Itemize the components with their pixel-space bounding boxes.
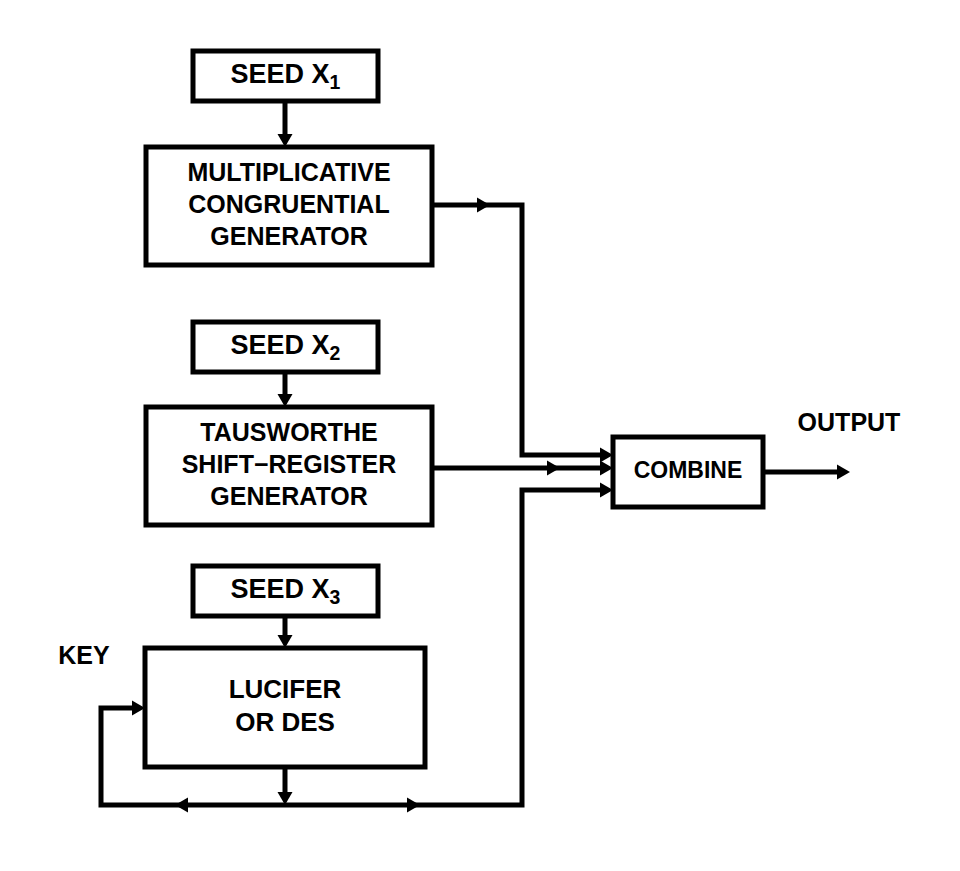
lucifer-or-des-box-label-line-2: OR DES xyxy=(235,707,335,737)
seed-x1-box-subscript: 1 xyxy=(330,71,341,93)
tausworthe-shift-register-generator-box[interactable]: TAUSWORTHESHIFT−REGISTERGENERATOR xyxy=(146,407,432,525)
output-label: OUTPUT xyxy=(798,408,901,436)
seed-x3-box[interactable]: SEED X3 xyxy=(193,566,378,616)
key-label: KEY xyxy=(58,641,110,669)
seed-x1-box-label-line-1: SEED X1 xyxy=(231,59,341,93)
boxes-layer: SEED X1MULTIPLICATIVECONGRUENTIALGENERAT… xyxy=(145,51,763,767)
connector-feedback-to-combine-mid-arrowhead-icon xyxy=(407,798,420,813)
multiplicative-congruential-generator-box-label-line-1: MULTIPLICATIVE xyxy=(187,158,390,186)
multiplicative-congruential-generator-box[interactable]: MULTIPLICATIVECONGRUENTIALGENERATOR xyxy=(146,147,432,265)
multiplicative-congruential-generator-box-label-line-2: CONGRUENTIAL xyxy=(188,190,389,218)
connector-tausworthe-to-combine xyxy=(432,461,613,476)
seed-x2-box-subscript: 2 xyxy=(330,342,341,364)
block-diagram: SEED X1MULTIPLICATIVECONGRUENTIALGENERAT… xyxy=(0,0,960,871)
connector-generator-to-combine-mid-arrowhead-icon xyxy=(477,198,490,213)
combine-box-label-line-1: COMBINE xyxy=(634,457,743,483)
diagram-canvas: SEED X1MULTIPLICATIVECONGRUENTIALGENERAT… xyxy=(0,0,960,871)
multiplicative-congruential-generator-box-label-line-3: GENERATOR xyxy=(210,222,367,250)
combine-box[interactable]: COMBINE xyxy=(613,437,763,507)
connector-lucifer-output-bus xyxy=(278,767,293,805)
tausworthe-shift-register-generator-box-label-line-1: TAUSWORTHE xyxy=(200,418,377,446)
connector-feedback-to-key-input-mid-arrowhead-icon xyxy=(175,798,188,813)
connector-generator-to-combine xyxy=(432,198,613,463)
connector-seed-x3-to-lucifer xyxy=(278,616,293,648)
connector-combine-to-output-arrowhead-icon xyxy=(837,465,850,480)
tausworthe-shift-register-generator-box-label-line-3: GENERATOR xyxy=(210,482,367,510)
lucifer-or-des-box[interactable]: LUCIFEROR DES xyxy=(145,648,425,767)
seed-x2-box-label-line-1: SEED X2 xyxy=(231,330,341,364)
connector-tausworthe-to-combine-mid-arrowhead-icon xyxy=(547,461,560,476)
tausworthe-shift-register-generator-box-label-line-2: SHIFT−REGISTER xyxy=(182,450,397,478)
connector-seed-x1-to-generator xyxy=(278,101,293,147)
connector-seed-x2-to-generator xyxy=(278,372,293,407)
connector-generator-to-combine-line xyxy=(432,205,606,455)
seed-x2-box[interactable]: SEED X2 xyxy=(193,322,378,372)
seed-x1-box[interactable]: SEED X1 xyxy=(193,51,378,101)
seed-x3-box-label-line-1: SEED X3 xyxy=(231,574,341,608)
lucifer-or-des-box-label-line-1: LUCIFER xyxy=(229,674,342,704)
seed-x3-box-subscript: 3 xyxy=(330,586,341,608)
connector-combine-to-output xyxy=(763,465,850,480)
